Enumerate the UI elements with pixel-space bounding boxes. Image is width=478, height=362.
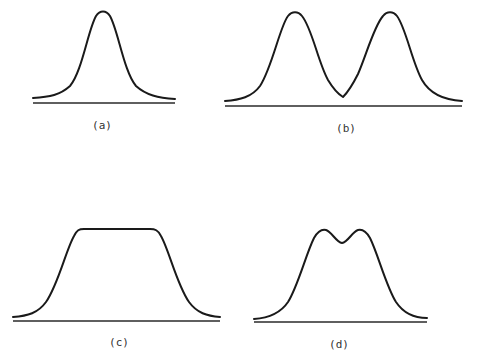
figure-canvas: (a) (b) (c) (d) [0, 0, 478, 362]
panel-d-label: (d) [329, 338, 349, 351]
panel-d-curve [254, 230, 427, 319]
panel-d: (d) [254, 230, 427, 351]
panel-a-label: (a) [92, 119, 112, 132]
panel-b: (b) [225, 12, 462, 135]
panel-b-curve [225, 12, 462, 101]
panel-c-curve [13, 229, 220, 317]
panel-c: (c) [13, 229, 220, 349]
panel-b-label: (b) [336, 122, 356, 135]
panel-a: (a) [33, 12, 175, 133]
panel-a-curve [33, 12, 175, 100]
panel-c-label: (c) [109, 336, 129, 349]
